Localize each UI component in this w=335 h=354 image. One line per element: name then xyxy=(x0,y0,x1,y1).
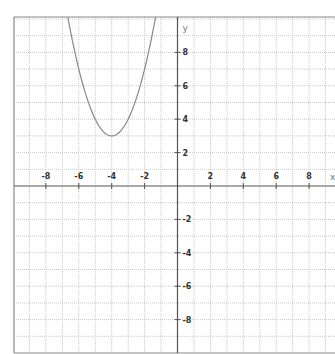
y-axis-label: y xyxy=(183,23,189,33)
grid-lines xyxy=(14,17,335,353)
x-tick-label: 4 xyxy=(241,172,247,181)
x-axis-label: x xyxy=(330,172,335,182)
y-tick-label: 4 xyxy=(183,115,189,124)
y-tick-label: -8 xyxy=(183,316,192,325)
parabola-curve xyxy=(68,17,156,136)
x-tick-label: -2 xyxy=(140,172,149,181)
y-tick-label: 6 xyxy=(183,82,189,91)
y-tick-label: -2 xyxy=(183,215,192,224)
x-tick-label: 8 xyxy=(306,172,312,181)
function-plot: -8-6-4-224688642-2-4-6-8 x y xyxy=(0,0,335,354)
x-tick-label: -4 xyxy=(107,172,116,181)
x-tick-label: -8 xyxy=(41,172,50,181)
y-tick-label: -4 xyxy=(183,249,192,258)
y-tick-label: -6 xyxy=(183,282,192,291)
y-tick-label: 2 xyxy=(183,149,189,158)
x-tick-label: 2 xyxy=(208,172,214,181)
y-tick-label: 8 xyxy=(183,48,189,57)
x-tick-label: -6 xyxy=(74,172,83,181)
x-tick-label: 6 xyxy=(273,172,279,181)
